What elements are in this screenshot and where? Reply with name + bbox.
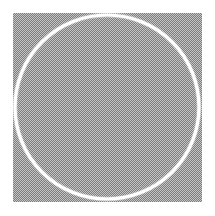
image-canvas xyxy=(0,0,215,216)
dither-panel xyxy=(13,13,202,202)
